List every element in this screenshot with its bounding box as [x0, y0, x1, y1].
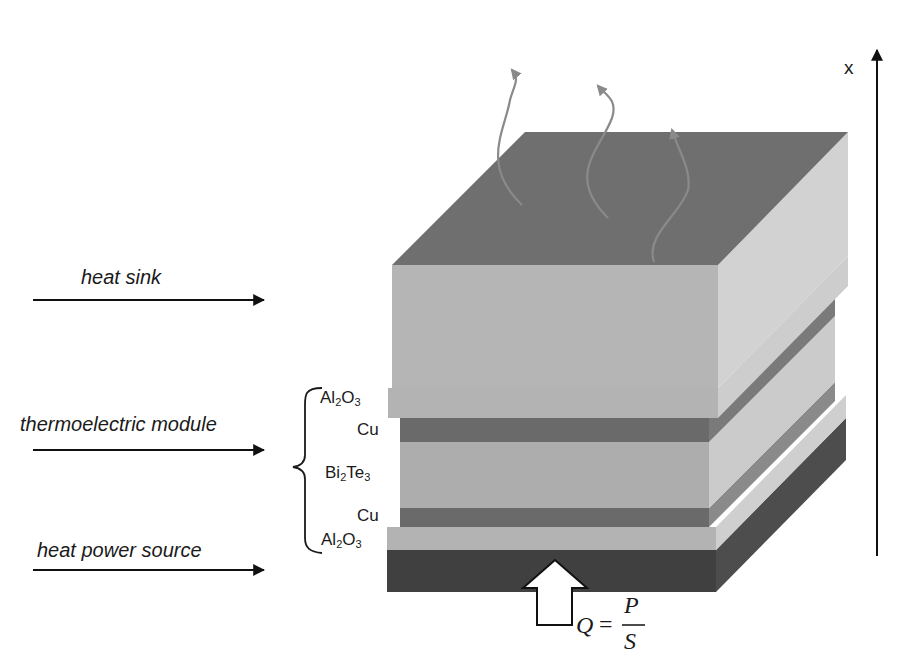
al2o3-top-label: Al2O3: [320, 388, 361, 408]
cu-top-label: Cu: [357, 420, 379, 440]
bi2te3-label: Bi2Te3: [325, 463, 370, 483]
heat-power-source-label: heat power source: [37, 539, 202, 562]
layer-brace: [293, 388, 322, 553]
formula-numerator: P: [624, 592, 639, 619]
cu-bottom-label: Cu: [357, 506, 379, 526]
formula-lhs: Q: [576, 612, 593, 639]
heat-sink-label: heat sink: [81, 266, 161, 289]
thermoelectric-module-label: thermoelectric module: [20, 413, 217, 436]
formula-equals: =: [599, 611, 613, 638]
formula-denominator: S: [624, 628, 636, 655]
x-axis-label: x: [844, 57, 854, 79]
thermoelectric-stack-diagram: [0, 0, 904, 672]
al2o3-bottom-label: Al2O3: [321, 530, 362, 550]
